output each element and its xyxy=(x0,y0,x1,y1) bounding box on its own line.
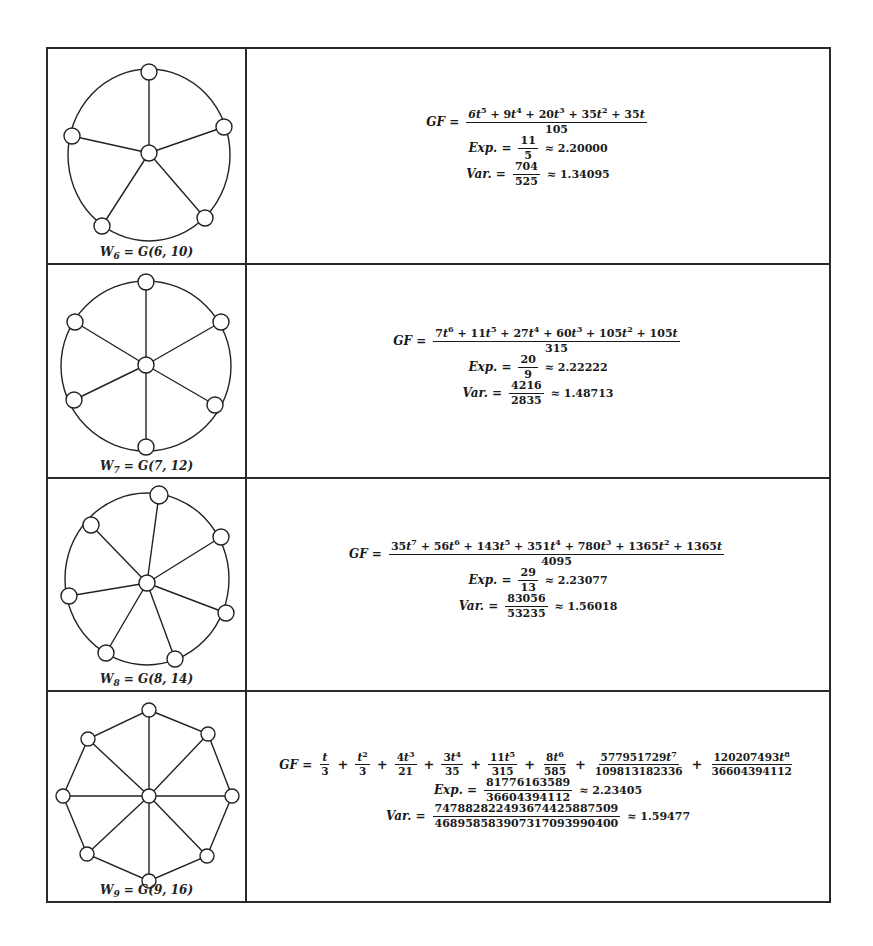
table-row-w6: W6 = G(6, 10) GF = 6t5 + 9t4 + 20t3 + 35… xyxy=(48,49,829,265)
variance-w9: Var. = 747882822493674425887509468958583… xyxy=(386,803,690,829)
expectation-w9: Exp. = 8177616358936604394112 ≈ 2.23405 xyxy=(434,777,642,803)
wheel-graph-w8-figure xyxy=(48,479,245,690)
table-row-w8: W8 = G(8, 14) GF = 35t7 + 56t6 + 143t5 +… xyxy=(48,479,829,692)
variance-w6: Var. = 704525 ≈ 1.34095 xyxy=(466,161,609,187)
formula-cell-w8: GF = 35t7 + 56t6 + 143t5 + 351t4 + 780t3… xyxy=(247,479,829,690)
graph-cell-w9: W9 = G(9, 16) xyxy=(48,692,247,901)
graph-label-w8: W8 = G(8, 14) xyxy=(48,672,245,688)
expectation-w7: Exp. = 209 ≈ 2.22222 xyxy=(468,354,607,380)
wheel-graph-w7-figure xyxy=(48,265,245,477)
wheel-graphs-table: W6 = G(6, 10) GF = 6t5 + 9t4 + 20t3 + 35… xyxy=(46,47,831,903)
table-row-w7: W7 = G(7, 12) GF = 7t6 + 11t5 + 27t4 + 6… xyxy=(48,265,829,479)
expectation-w8: Exp. = 2913 ≈ 2.23077 xyxy=(468,567,607,593)
wheel-graph-w6-figure xyxy=(48,49,245,263)
gf-equation-w9: GF = t3 + t23 + 4t321 + 3t435 + 11t5315 … xyxy=(279,752,797,777)
gf-equation-w7: GF = 7t6 + 11t5 + 27t4 + 60t3 + 105t2 + … xyxy=(393,328,682,354)
formula-cell-w7: GF = 7t6 + 11t5 + 27t4 + 60t3 + 105t2 + … xyxy=(247,265,829,477)
wheel-graph-w9-figure xyxy=(48,692,245,899)
graph-cell-w7: W7 = G(7, 12) xyxy=(48,265,247,477)
gf-equation-w6: GF = 6t5 + 9t4 + 20t3 + 35t2 + 35t 105 xyxy=(426,109,650,135)
graph-cell-w6: W6 = G(6, 10) xyxy=(48,49,247,263)
gf-equation-w8: GF = 35t7 + 56t6 + 143t5 + 351t4 + 780t3… xyxy=(349,541,727,567)
expectation-w6: Exp. = 115 ≈ 2.20000 xyxy=(468,135,607,161)
graph-label-w7: W7 = G(7, 12) xyxy=(48,459,245,475)
formula-cell-w9: GF = t3 + t23 + 4t321 + 3t435 + 11t5315 … xyxy=(247,692,829,901)
table-row-w9: W9 = G(9, 16) GF = t3 + t23 + 4t321 + 3t… xyxy=(48,692,829,901)
formula-cell-w6: GF = 6t5 + 9t4 + 20t3 + 35t2 + 35t 105 E… xyxy=(247,49,829,263)
graph-label-w9: W9 = G(9, 16) xyxy=(48,883,245,899)
graph-label-w6: W6 = G(6, 10) xyxy=(48,245,245,261)
variance-w7: Var. = 42162835 ≈ 1.48713 xyxy=(462,380,613,406)
variance-w8: Var. = 8305653235 ≈ 1.56018 xyxy=(459,593,618,619)
graph-cell-w8: W8 = G(8, 14) xyxy=(48,479,247,690)
